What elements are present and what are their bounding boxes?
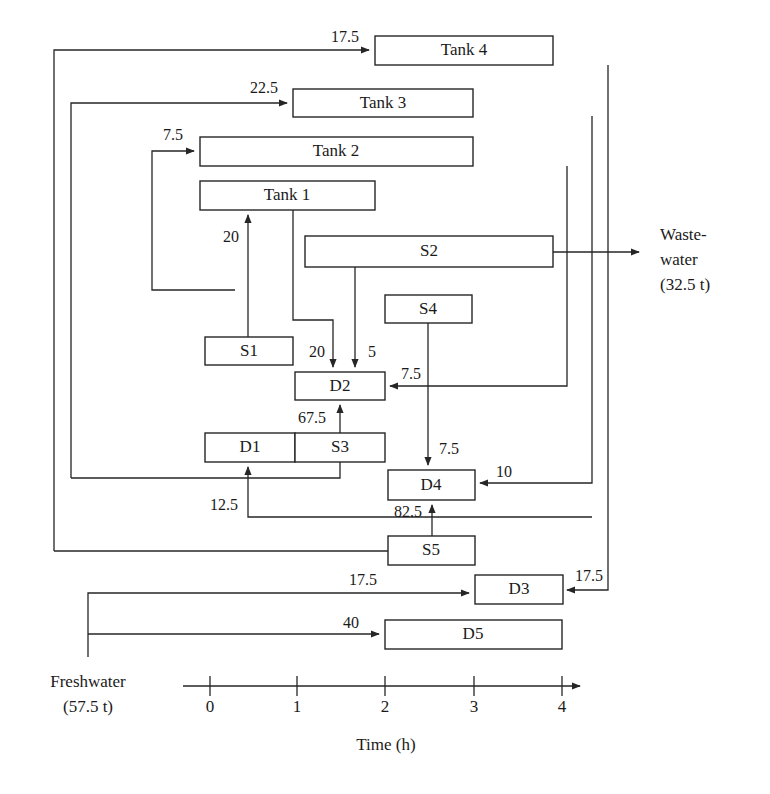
flow-label-s1-to-tank1: 20: [223, 228, 239, 245]
box-label-d3: D3: [509, 579, 530, 598]
flow-value-labels: 17.5 22.5 7.5 20 20 5 7.5 67.5 7.5 10 82…: [163, 28, 603, 631]
box-label-s4: S4: [419, 299, 437, 318]
flow-label-tank1-to-d2: 20: [309, 343, 325, 360]
unit-boxes: Tank 4 Tank 3 Tank 2 Tank 1 S2 S4 S1 D2 …: [200, 36, 563, 649]
axis-tick-label-4: 4: [558, 697, 567, 716]
axis-tick-label-3: 3: [470, 697, 479, 716]
flow-to-tank2: [152, 151, 235, 290]
box-label-tank3: Tank 3: [360, 93, 407, 112]
time-axis: 0 1 2 3 4 Time (h): [183, 676, 580, 754]
flow-label-tank4-to-d3: 17.5: [575, 567, 603, 584]
water-network-diagram: Tank 4 Tank 3 Tank 2 Tank 1 S2 S4 S1 D2 …: [0, 0, 770, 794]
box-label-d2: D2: [330, 376, 351, 395]
flow-label-to-d4-right: 10: [496, 463, 512, 480]
flow-label-to-tank3: 22.5: [250, 79, 278, 96]
box-label-tank4: Tank 4: [441, 40, 488, 59]
box-label-s5: S5: [422, 540, 440, 559]
box-label-d4: D4: [421, 475, 442, 494]
box-label-s1: S1: [240, 341, 258, 360]
flow-tank2-to-d2: [390, 166, 567, 386]
flow-s3-outlet: [71, 462, 340, 478]
flow-label-to-tank4: 17.5: [331, 28, 359, 45]
box-label-tank1: Tank 1: [264, 185, 311, 204]
axis-tick-label-0: 0: [206, 697, 215, 716]
box-label-d1: D1: [240, 437, 261, 456]
box-label-d5: D5: [463, 624, 484, 643]
flow-tank4-to-d3: [567, 65, 608, 590]
box-label-s3: S3: [331, 437, 349, 456]
flow-label-to-tank2: 7.5: [163, 126, 183, 143]
box-label-s2: S2: [420, 241, 438, 260]
flow-label-s4-to-d2: 7.5: [401, 365, 421, 382]
flow-tank3-to-d4: [480, 116, 592, 483]
flow-label-s5-to-d4: 82.5: [394, 503, 422, 520]
freshwater-amount: (57.5 t): [63, 697, 113, 716]
flow-label-s4-to-d4: 7.5: [439, 440, 459, 457]
flow-label-s3-to-d2: 67.5: [298, 409, 326, 426]
flow-label-fresh-to-d3: 17.5: [349, 571, 377, 588]
diagram-canvas: Tank 4 Tank 3 Tank 2 Tank 1 S2 S4 S1 D2 …: [0, 0, 770, 794]
freshwater-label: Freshwater: [50, 672, 126, 691]
endpoint-labels: Freshwater (57.5 t) Waste- water (32.5 t…: [50, 225, 710, 716]
flow-label-to-d1: 12.5: [210, 496, 238, 513]
axis-tick-label-1: 1: [293, 697, 302, 716]
flow-freshwater-to-tank4: [54, 50, 369, 551]
flow-label-fresh-to-d5: 40: [343, 614, 359, 631]
axis-tick-label-2: 2: [381, 697, 390, 716]
wastewater-amount: (32.5 t): [660, 275, 710, 294]
wastewater-label-line2: water: [660, 250, 698, 269]
wastewater-label-line1: Waste-: [660, 225, 707, 244]
flow-label-s2-to-d2: 5: [368, 343, 376, 360]
box-label-tank2: Tank 2: [313, 141, 360, 160]
axis-title: Time (h): [356, 735, 415, 754]
